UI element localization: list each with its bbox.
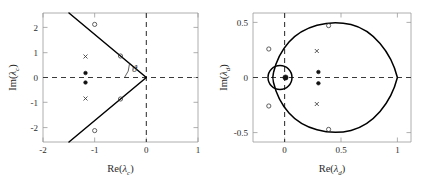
y-tick-label: 2 xyxy=(34,23,39,33)
x-tick-label: -1 xyxy=(91,145,99,155)
figure-root: ϑ -2 -1 xyxy=(0,0,422,179)
y-tick-label: 0 xyxy=(244,73,249,83)
y-tick-labels: 2 1 0 -1 -2 xyxy=(31,23,39,133)
eigenvalue-dot-markers xyxy=(84,71,88,84)
y-tick-label: 0 xyxy=(34,73,39,83)
x-tick-label: -2 xyxy=(39,145,47,155)
y-tick-labels: 0.5 0 -0.5 xyxy=(234,18,249,138)
stability-sector-lower-line xyxy=(69,78,146,143)
y-tick-label: -1 xyxy=(31,98,39,108)
y-axis-title-close: ) xyxy=(218,64,230,68)
axis-frame xyxy=(253,13,411,142)
y-axis-title-im: Im( xyxy=(7,75,19,91)
x-axis-title-re: Re( xyxy=(319,163,335,175)
x-tick-labels: 0 0.5 1 xyxy=(282,145,399,155)
y-tick-label: 1 xyxy=(34,48,39,58)
y-tick-label: -2 xyxy=(31,123,39,133)
y-axis-title-close: ) xyxy=(7,64,19,68)
angle-label: ϑ xyxy=(132,63,138,74)
x-axis-title-re: Re( xyxy=(107,163,123,175)
y-tick-label: 0.5 xyxy=(237,18,249,28)
y-axis-title-im: Im( xyxy=(218,75,230,91)
x-tick-label: 1 xyxy=(196,145,201,155)
x-tick-label: 0 xyxy=(144,145,149,155)
x-axis-title-close: ) xyxy=(130,163,134,175)
x-axis-title-close: ) xyxy=(342,163,346,175)
y-tick-label: -0.5 xyxy=(234,128,249,138)
y-axis-title: Im(λc) xyxy=(7,64,21,91)
x-axis-title: Re(λd) xyxy=(319,163,346,177)
axis-frame xyxy=(43,13,198,142)
eigenvalue-cross-markers xyxy=(84,55,88,101)
continuous-time-eigenvalue-plot: ϑ -2 -1 xyxy=(0,0,211,179)
y-tick-marks xyxy=(253,22,411,132)
x-axis-title: Re(λc) xyxy=(107,163,134,177)
plot-panel-continuous: ϑ -2 -1 xyxy=(0,0,211,179)
discrete-time-eigenvalue-plot: 0 0.5 1 0.5 0 -0.5 Re(λd) Im(λd) xyxy=(211,0,422,179)
plot-panel-discrete: 0 0.5 1 0.5 0 -0.5 Re(λd) Im(λd) xyxy=(211,0,422,179)
x-tick-label: 1 xyxy=(395,145,400,155)
angle-arc xyxy=(125,64,130,78)
y-axis-title: Im(λd) xyxy=(218,64,232,91)
x-tick-marks xyxy=(43,13,198,142)
x-tick-label: 0 xyxy=(282,145,287,155)
x-tick-labels: -2 -1 0 1 xyxy=(39,145,200,155)
x-tick-label: 0.5 xyxy=(335,145,347,155)
y-tick-marks xyxy=(43,27,198,127)
